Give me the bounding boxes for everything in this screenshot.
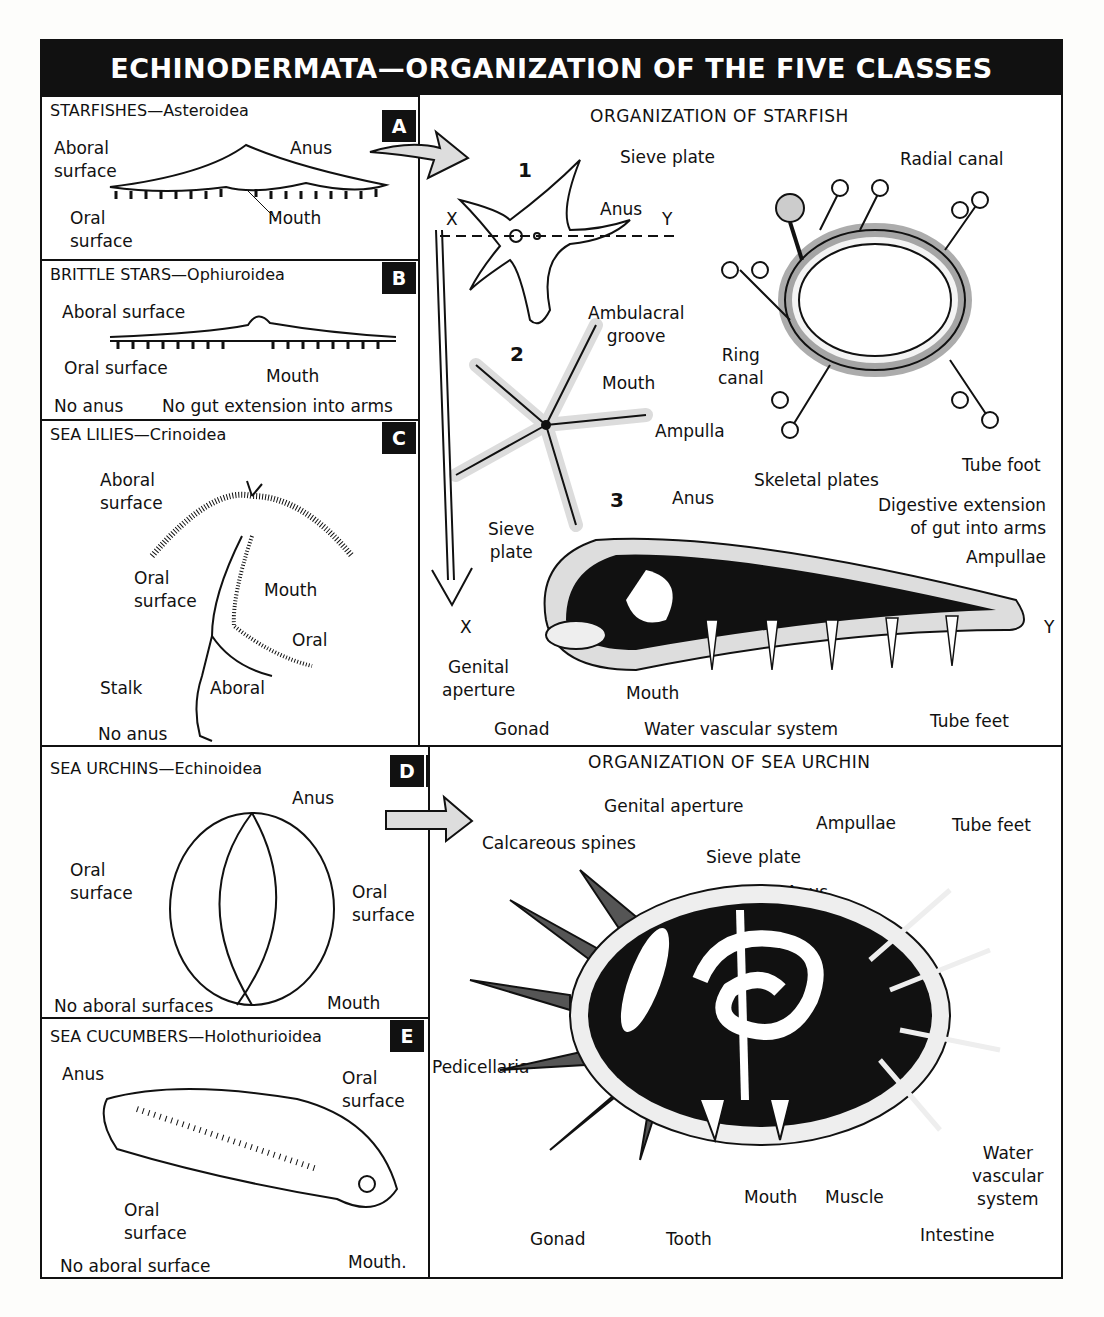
badge-d: D	[390, 755, 424, 787]
label-genital-aperture: Genital aperture	[604, 795, 744, 818]
water-vascular-ring-icon	[710, 170, 1010, 450]
class-title: SEA LILIES—Crinoidea	[50, 425, 226, 444]
badge-b: B	[382, 262, 416, 294]
label-oral-surface: Oral surface	[64, 357, 168, 380]
starfish-side-view-icon	[106, 137, 406, 197]
label-x: X	[460, 616, 472, 639]
label-gonad: Gonad	[494, 718, 550, 741]
note-no-aboral-surface: No aboral surface	[60, 1255, 211, 1278]
sea-lily-icon	[152, 476, 352, 746]
label-anus: Anus	[672, 487, 714, 510]
class-title: SEA CUCUMBERS—Holothurioidea	[50, 1027, 322, 1046]
panel-sea-lilies: SEA LILIES—Crinoidea Aboral surface Oral…	[40, 419, 420, 747]
panel-sea-urchins: SEA URCHINS—Echinoidea Anus Oral surface…	[40, 745, 430, 1019]
figure-3-number: 3	[610, 488, 624, 512]
note-no-anus: No anus	[54, 395, 123, 418]
label-muscle: Muscle	[825, 1186, 884, 1209]
sea-cucumber-icon	[97, 1079, 397, 1219]
label-skeletal-plates: Skeletal plates	[754, 469, 879, 492]
label-y: Y	[1044, 616, 1054, 639]
label-oral-surface: Oral surface	[70, 207, 133, 253]
label-tube-feet: Tube feet	[930, 710, 1009, 733]
label-tube-foot: Tube foot	[962, 454, 1041, 477]
label-sieve-plate: Sieve plate	[488, 518, 535, 564]
label-genital-aperture: Genital aperture	[442, 656, 515, 702]
label-intestine: Intestine	[920, 1224, 994, 1247]
badge-c: C	[382, 422, 416, 454]
panel-sea-cucumbers: SEA CUCUMBERS—Holothurioidea Anus Oral s…	[40, 1017, 430, 1279]
panel-brittle-stars: BRITTLE STARS—Ophiuroidea Aboral surface…	[40, 259, 420, 421]
label-calcareous-spines: Calcareous spines	[482, 832, 636, 855]
note-no-gut-extension: No gut extension into arms	[162, 395, 393, 418]
badge-e: E	[390, 1020, 424, 1052]
class-title: BRITTLE STARS—Ophiuroidea	[50, 265, 285, 284]
starfish-cross-section-icon	[536, 520, 1036, 690]
class-title: SEA URCHINS—Echinoidea	[50, 759, 262, 778]
arrow-to-urchin-icon	[386, 795, 476, 845]
label-mouth: Mouth	[744, 1186, 797, 1209]
label-stalk: Stalk	[100, 677, 142, 700]
label-water-vascular-system: Water vascular system	[644, 718, 838, 741]
label-tooth: Tooth	[666, 1228, 712, 1251]
label-oral-surface-right: Oral surface	[352, 881, 415, 927]
sea-urchin-cross-section-icon	[470, 870, 1030, 1170]
class-title: STARFISHES—Asteroidea	[50, 101, 249, 120]
starfish-section-title: ORGANIZATION OF STARFISH	[590, 106, 849, 126]
urchin-section-title: ORGANIZATION OF SEA URCHIN	[588, 752, 871, 772]
label-mouth: Mouth.	[348, 1251, 407, 1274]
page-title: ECHINODERMATA—ORGANIZATION OF THE FIVE C…	[40, 39, 1063, 97]
label-sieve-plate: Sieve plate	[706, 846, 801, 869]
label-anus: Anus	[292, 787, 334, 810]
label-ampullae: Ampullae	[816, 812, 896, 835]
sea-urchin-icon	[157, 809, 347, 1009]
brittle-star-side-view-icon	[108, 305, 398, 355]
label-radial-canal: Radial canal	[900, 148, 1004, 171]
label-gonad: Gonad	[530, 1228, 586, 1251]
label-mouth: Mouth	[266, 365, 319, 388]
label-tube-feet: Tube feet	[952, 814, 1031, 837]
panel-starfishes: STARFISHES—Asteroidea Aboral surface Anu…	[40, 95, 420, 261]
starfish-oral-view-icon	[446, 325, 656, 525]
label-oral-surface-left: Oral surface	[70, 859, 133, 905]
